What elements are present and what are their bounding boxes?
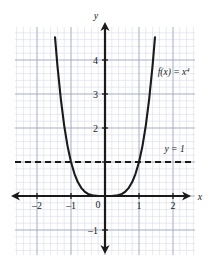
y-tick-label-2: 2 [93, 123, 98, 134]
tick-label-origin: 0 [96, 199, 101, 210]
y-tick-label-4: 4 [93, 55, 98, 66]
x-tick-label-4: 2 [171, 200, 176, 211]
y-axis-label: y [93, 10, 99, 21]
y-tick-label-0: –1 [87, 225, 98, 236]
function-label: f(x) = x4 [158, 66, 191, 79]
x-tick-label-3: 1 [137, 200, 142, 211]
coordinate-plane: –2–1012–1234 x y f(x) = x4 y = 1 [0, 0, 212, 264]
x-tick-label-0: –2 [31, 200, 42, 211]
graph-figure: –2–1012–1234 x y f(x) = x4 y = 1 [0, 0, 212, 264]
x-tick-label-1: –1 [65, 200, 76, 211]
x-axis-label: x [197, 191, 203, 202]
y-tick-label-3: 3 [93, 89, 98, 100]
function-label-text: f(x) = x [158, 67, 187, 78]
horizontal-line-label: y = 1 [164, 144, 185, 154]
